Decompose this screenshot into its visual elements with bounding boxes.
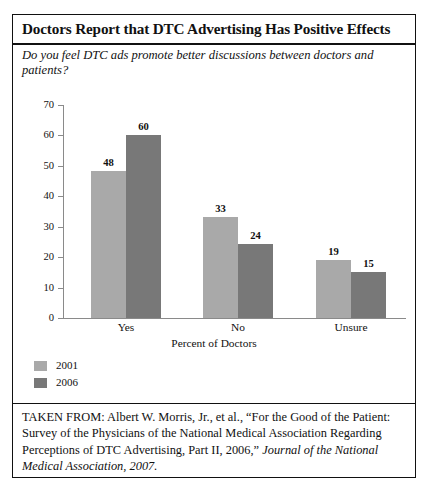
y-tick-mark (58, 318, 63, 319)
chart-subtitle: Do you feel DTC ads promote better discu… (22, 48, 400, 79)
plot-area: 010203040506070 486033241915 YesNoUnsure… (13, 97, 415, 329)
category-label-no: No (178, 321, 298, 333)
source-citation: TAKEN FROM: Albert W. Morris, Jr., et al… (22, 409, 404, 475)
bar-fill (351, 272, 386, 318)
y-tick-label: 10 (43, 283, 54, 294)
chart-legend: 20012006 (34, 359, 78, 393)
legend-label-2001: 2001 (56, 360, 78, 371)
legend-item-2001: 2001 (34, 359, 78, 372)
y-tick-label: 70 (43, 100, 54, 111)
y-tick-label: 40 (43, 191, 54, 202)
category-label-yes: Yes (66, 321, 186, 333)
legend-item-2006: 2006 (34, 376, 78, 389)
bar-fill (91, 171, 126, 317)
y-tick-label: 50 (43, 161, 54, 172)
bar-fill (238, 244, 273, 317)
title-divider (13, 43, 415, 45)
legend-swatch-2006 (34, 378, 47, 388)
legend-swatch-2001 (34, 361, 47, 371)
category-label-unsure: Unsure (291, 321, 411, 333)
y-tick-label: 30 (43, 222, 54, 233)
bar-value-label: 33 (203, 203, 238, 214)
bar-value-label: 19 (316, 246, 351, 257)
chart-title: Doctors Report that DTC Advertising Has … (13, 15, 415, 43)
x-axis-title: Percent of Doctors (13, 337, 415, 349)
citation-divider (13, 403, 415, 404)
y-tick-label: 0 (49, 313, 54, 324)
bar-unsure-2001: 19 (316, 260, 351, 318)
bar-no-2001: 33 (203, 217, 238, 317)
bar-value-label: 60 (126, 121, 161, 132)
legend-label-2006: 2006 (56, 377, 78, 388)
bars-layer: 486033241915 (63, 105, 406, 318)
y-tick-label: 20 (43, 252, 54, 263)
bar-value-label: 24 (238, 230, 273, 241)
bar-yes-2006: 60 (126, 135, 161, 318)
bar-yes-2001: 48 (91, 171, 126, 317)
bar-unsure-2006: 15 (351, 272, 386, 318)
bar-value-label: 15 (351, 258, 386, 269)
figure-panel: Doctors Report that DTC Advertising Has … (12, 14, 416, 478)
bar-fill (126, 135, 161, 318)
bar-value-label: 48 (91, 157, 126, 168)
bar-fill (203, 217, 238, 317)
bar-no-2006: 24 (238, 244, 273, 317)
bar-fill (316, 260, 351, 318)
x-axis-line (63, 318, 406, 319)
y-tick-label: 60 (43, 130, 54, 141)
